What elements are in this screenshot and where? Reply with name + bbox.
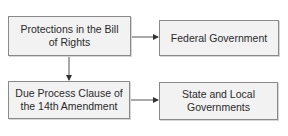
node-label: Federal Government <box>171 32 267 45</box>
node-label: Due Process Clause of the 14th Amendment <box>15 87 123 113</box>
node-bill-of-rights: Protections in the Bill of Rights <box>8 16 131 56</box>
node-due-process-clause: Due Process Clause of the 14th Amendment <box>8 81 130 119</box>
node-state-local-governments: State and Local Governments <box>159 82 278 120</box>
node-label: Protections in the Bill of Rights <box>15 23 124 49</box>
flowchart-canvas: Protections in the Bill of Rights Federa… <box>0 0 288 136</box>
node-label: State and Local Governments <box>166 88 271 114</box>
node-federal-government: Federal Government <box>159 20 279 56</box>
